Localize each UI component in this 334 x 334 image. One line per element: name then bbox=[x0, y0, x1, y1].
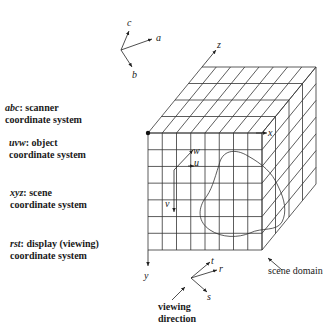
axis-label-v: v bbox=[165, 199, 169, 209]
axis-label-z: z bbox=[217, 40, 221, 50]
legend-scanner: abc: scanner coordinate system bbox=[5, 102, 82, 126]
axis-label-b: b bbox=[132, 70, 137, 80]
scanner-axes-icon bbox=[121, 31, 152, 67]
legend-scene: xyz: scene coordinate system bbox=[10, 187, 87, 211]
object-outline bbox=[200, 151, 285, 236]
axis-label-y: y bbox=[144, 271, 148, 281]
viewing-direction-arrow bbox=[172, 287, 185, 300]
scene-domain-label: scene domain bbox=[268, 265, 323, 277]
axis-label-x: x bbox=[268, 128, 272, 138]
axis-label-s: s bbox=[207, 292, 211, 302]
axis-label-c: c bbox=[127, 18, 131, 28]
legend-display: rst: display (viewing) coordinate system bbox=[10, 238, 99, 262]
axis-label-a: a bbox=[156, 33, 161, 43]
scene-volume-diagram bbox=[0, 0, 334, 334]
scene-origin-dot bbox=[146, 131, 150, 135]
display-axes-icon bbox=[191, 262, 217, 292]
viewing-direction-label: viewing direction bbox=[158, 301, 196, 325]
legend-object: uvw: object coordinate system bbox=[9, 137, 86, 161]
axis-label-t: t bbox=[211, 256, 214, 266]
axis-label-r: r bbox=[219, 264, 223, 274]
axis-label-u: u bbox=[194, 158, 199, 168]
axis-label-w: w bbox=[193, 146, 200, 156]
